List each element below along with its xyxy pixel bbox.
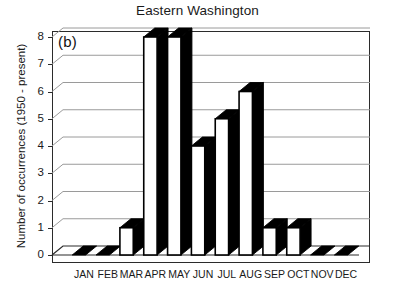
y-tick-mark — [48, 92, 52, 93]
bar-aug — [239, 83, 263, 256]
y-tick-mark — [48, 173, 52, 174]
bar-front-face — [263, 228, 276, 255]
y-tick-label: 4 — [14, 140, 44, 151]
chart-title: Eastern Washington — [0, 3, 395, 18]
y-tick-mark — [48, 146, 52, 147]
y-tick-label: 0 — [14, 249, 44, 260]
bar-may — [168, 28, 192, 255]
gridline — [52, 28, 370, 37]
y-tick-label: 5 — [14, 113, 44, 124]
y-tick-label: 7 — [14, 58, 44, 69]
bar-mar — [120, 219, 144, 255]
bar-dec — [334, 246, 358, 255]
bar-front-face — [287, 228, 300, 255]
bar-oct — [287, 219, 311, 255]
bars-group — [72, 28, 359, 255]
bar-side-face — [181, 28, 192, 255]
y-tick-label: 2 — [14, 195, 44, 206]
bar-side-face — [205, 137, 216, 255]
gridline — [52, 55, 370, 64]
bar-zero-slab — [334, 246, 358, 255]
panel-label: (b) — [58, 33, 77, 50]
bar-feb — [96, 246, 120, 255]
y-tick-mark — [48, 228, 52, 229]
bar-zero-slab — [72, 246, 96, 255]
y-tick-mark — [48, 37, 52, 38]
y-tick-mark — [48, 119, 52, 120]
y-tick-mark — [48, 255, 52, 256]
bar-jul — [215, 110, 239, 255]
bar-jun — [191, 137, 215, 255]
bar-side-face — [229, 110, 240, 255]
plot-canvas — [52, 31, 370, 263]
bar-nov — [311, 246, 335, 255]
y-tick-label: 8 — [14, 31, 44, 42]
y-tick-mark — [48, 64, 52, 65]
bar-front-face — [144, 37, 157, 255]
bar-front-face — [120, 228, 133, 255]
bar-zero-slab — [311, 246, 335, 255]
gridline — [52, 83, 370, 92]
bar-side-face — [252, 83, 263, 256]
bar-front-face — [191, 146, 204, 255]
x-tick-label: DEC — [328, 268, 364, 280]
bar-front-face — [239, 92, 252, 256]
gridline — [52, 110, 370, 119]
bar-zero-slab — [96, 246, 120, 255]
bar-sep — [263, 219, 287, 255]
y-tick-label: 6 — [14, 86, 44, 97]
bar-apr — [144, 28, 168, 255]
chart-figure: Eastern Washington Number of occurrences… — [0, 0, 395, 293]
bar-front-face — [168, 37, 181, 255]
bar-side-face — [157, 28, 168, 255]
y-tick-label: 1 — [14, 222, 44, 233]
bar-front-face — [215, 119, 228, 255]
y-tick-label: 3 — [14, 167, 44, 178]
bar-jan — [72, 246, 96, 255]
y-tick-mark — [48, 201, 52, 202]
